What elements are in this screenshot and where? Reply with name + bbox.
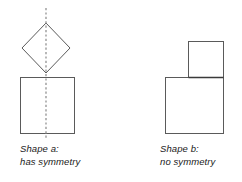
shape-a-caption-line1: Shape a:: [20, 143, 80, 156]
shape-b-caption-line1: Shape b:: [160, 143, 215, 156]
shape-a-square: [21, 78, 75, 134]
shape-a-caption: Shape a: has symmetry: [20, 143, 80, 168]
shape-a-group: [21, 8, 75, 140]
shape-b-small-square: [189, 42, 224, 78]
shape-b-large-square: [166, 78, 224, 134]
shape-a-caption-line2: has symmetry: [20, 156, 80, 169]
shape-b-caption-line2: no symmetry: [160, 156, 215, 169]
symmetry-diagram: Shape a: has symmetry Shape b: no symmet…: [0, 0, 242, 182]
shape-b-caption: Shape b: no symmetry: [160, 143, 215, 168]
shape-b-group: [166, 42, 224, 134]
